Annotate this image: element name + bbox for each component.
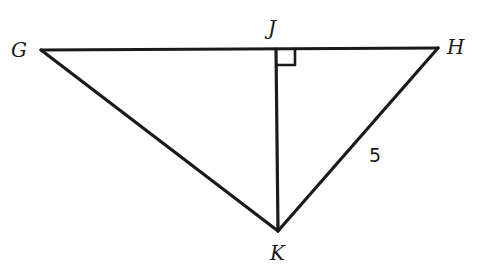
segment-hk (278, 48, 438, 231)
side-label-hk: 5 (369, 144, 381, 166)
vertex-label-h: H (446, 35, 465, 59)
segment-jk (276, 49, 278, 231)
segment-gh (41, 48, 438, 50)
triangle-diagram: G J H K 5 (0, 0, 482, 272)
segment-gk (41, 50, 278, 231)
right-angle-marker (277, 49, 295, 65)
vertex-label-k: K (269, 241, 286, 265)
vertex-label-g: G (11, 38, 27, 62)
vertex-label-j: J (264, 16, 277, 40)
